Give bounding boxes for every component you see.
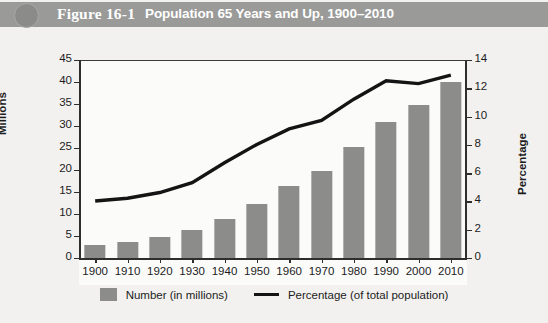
chart-legend: Number (in millions) Percentage (of tota… <box>0 288 548 301</box>
tick-mark <box>467 230 472 231</box>
y-tick-right-label: 12 <box>474 80 487 92</box>
x-tick-1960 <box>289 258 290 263</box>
header-circle-decoration <box>14 3 39 28</box>
x-tick-label-1930: 1930 <box>179 265 205 277</box>
tick-mark <box>74 192 79 193</box>
legend-item-number: Number (in millions) <box>100 288 228 301</box>
legend-bar-label: Number (in millions) <box>126 289 228 301</box>
x-tick-2000 <box>419 258 420 263</box>
tick-mark <box>74 104 79 105</box>
x-tick-label-1940: 1940 <box>212 265 238 277</box>
y-axis-right-line <box>465 60 467 258</box>
tick-mark <box>467 60 472 61</box>
y-tick-left-label: 0 <box>48 250 72 262</box>
plot-inner <box>79 61 467 259</box>
x-tick-label-2000: 2000 <box>406 265 432 277</box>
y-tick-right-label: 8 <box>474 137 480 149</box>
y-tick-right-label: 2 <box>474 222 480 234</box>
percentage-line <box>95 75 451 201</box>
tick-mark <box>74 126 79 127</box>
legend-line-label: Percentage (of total population) <box>288 289 448 301</box>
y-tick-left-label: 25 <box>48 140 72 152</box>
y-axis-right-title: Percentage <box>516 133 528 195</box>
tick-mark <box>467 173 472 174</box>
y-axis-left-line <box>79 60 81 258</box>
tick-mark <box>74 214 79 215</box>
tick-mark <box>467 258 472 259</box>
figure-title: Population 65 Years and Up, 1900–2010 <box>145 6 394 21</box>
x-axis-line <box>79 258 467 260</box>
y-tick-right-label: 10 <box>474 109 487 121</box>
legend-bar-swatch <box>100 288 117 301</box>
x-tick-1970 <box>322 258 323 263</box>
x-tick-label-1920: 1920 <box>147 265 173 277</box>
x-tick-label-1910: 1910 <box>115 265 141 277</box>
y-tick-right-label: 0 <box>474 250 480 262</box>
x-tick-label-1950: 1950 <box>244 265 270 277</box>
plot-area <box>79 60 467 285</box>
y-tick-left-label: 10 <box>48 206 72 218</box>
x-tick-1990 <box>386 258 387 263</box>
x-tick-1930 <box>192 258 193 263</box>
y-tick-right-label: 14 <box>474 52 487 64</box>
tick-mark <box>74 258 79 259</box>
y-tick-left-label: 35 <box>48 96 72 108</box>
x-tick-label-2010: 2010 <box>438 265 464 277</box>
x-tick-label-1970: 1970 <box>309 265 335 277</box>
x-tick-label-1960: 1960 <box>276 265 302 277</box>
tick-mark <box>467 201 472 202</box>
legend-item-percentage: Percentage (of total population) <box>254 289 448 301</box>
x-tick-1980 <box>354 258 355 263</box>
y-tick-left-label: 45 <box>48 52 72 64</box>
y-tick-left-label: 30 <box>48 118 72 130</box>
tick-mark <box>74 236 79 237</box>
x-tick-2010 <box>451 258 452 263</box>
y-tick-right-label: 4 <box>474 193 480 205</box>
x-tick-label-1980: 1980 <box>341 265 367 277</box>
y-tick-left-label: 5 <box>48 228 72 240</box>
x-tick-1910 <box>128 258 129 263</box>
tick-mark <box>74 60 79 61</box>
y-tick-left-label: 40 <box>48 74 72 86</box>
x-tick-1950 <box>257 258 258 263</box>
x-tick-label-1990: 1990 <box>373 265 399 277</box>
x-tick-1900 <box>95 258 96 263</box>
tick-mark <box>467 117 472 118</box>
legend-line-swatch <box>254 293 279 296</box>
tick-mark <box>74 82 79 83</box>
tick-mark <box>467 145 472 146</box>
x-tick-1920 <box>160 258 161 263</box>
y-axis-left-title: Millions <box>0 92 8 135</box>
tick-mark <box>74 170 79 171</box>
x-tick-1940 <box>225 258 226 263</box>
y-tick-right-label: 6 <box>474 165 480 177</box>
y-tick-left-label: 20 <box>48 162 72 174</box>
tick-mark <box>467 88 472 89</box>
figure-header-bar: Figure 16-1 Population 65 Years and Up, … <box>0 2 548 27</box>
line-series-layer <box>79 61 467 259</box>
figure-number-label: Figure 16-1 <box>57 5 135 23</box>
y-tick-left-label: 15 <box>48 184 72 196</box>
tick-mark <box>74 148 79 149</box>
chart-container: 051015202530354045 02468101214 190019101… <box>0 27 548 323</box>
x-tick-label-1900: 1900 <box>82 265 108 277</box>
